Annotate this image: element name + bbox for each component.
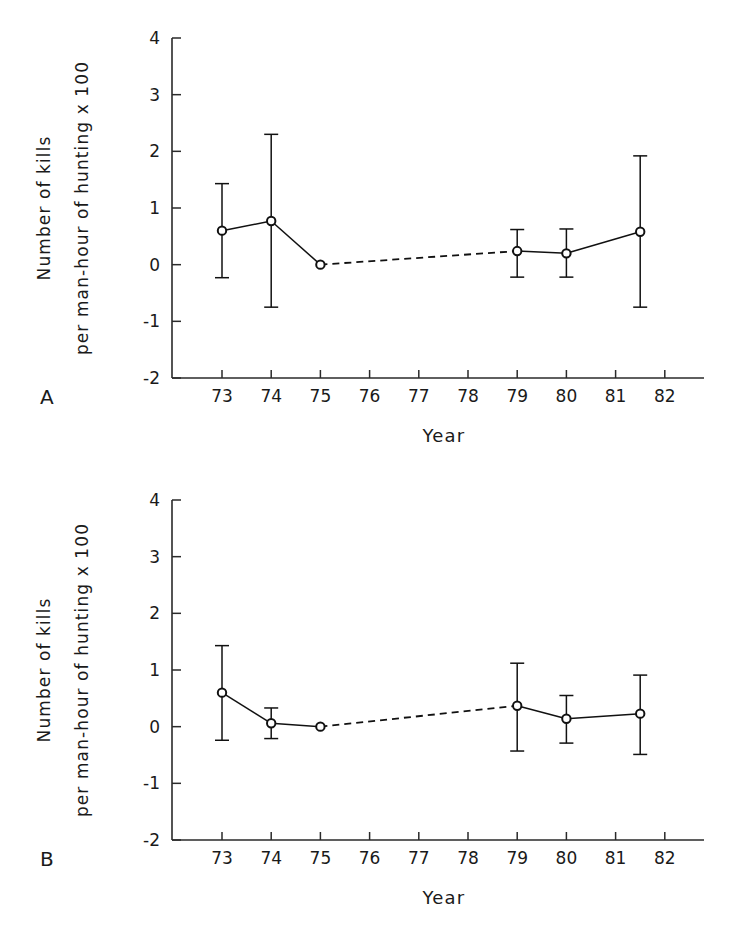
- y-axis-title-line2: per man-hour of hunting x 100: [72, 523, 92, 817]
- y-axis-title-line1: Number of kills: [34, 598, 54, 743]
- x-tick-label: 75: [310, 386, 332, 406]
- series-segment-solid: [222, 221, 271, 231]
- x-tick-label: 76: [359, 386, 381, 406]
- y-tick-label: 3: [149, 547, 160, 567]
- data-point-marker: [218, 688, 226, 696]
- figure-container: 43210-1-273747576777879808182YearNumber …: [0, 0, 745, 938]
- y-axis-title-line1: Number of kills: [34, 136, 54, 281]
- series-segment-solid: [517, 706, 566, 719]
- data-point-marker: [267, 217, 275, 225]
- y-tick-label: -2: [143, 368, 160, 388]
- x-tick-label: 73: [211, 386, 233, 406]
- x-tick-label: 79: [506, 848, 528, 868]
- y-tick-label: -1: [143, 311, 160, 331]
- x-tick-label: 82: [654, 848, 676, 868]
- series-segment-dashed: [320, 706, 517, 727]
- y-axis-title-line2: per man-hour of hunting x 100: [72, 61, 92, 355]
- x-tick-label: 81: [605, 386, 627, 406]
- x-tick-label: 78: [457, 848, 479, 868]
- y-tick-label: 1: [149, 198, 160, 218]
- x-tick-label: 74: [260, 386, 282, 406]
- y-tick-label: 0: [149, 255, 160, 275]
- data-point-marker: [513, 702, 521, 710]
- series-segment-solid: [517, 251, 566, 253]
- x-tick-label: 76: [359, 848, 381, 868]
- y-tick-label: 3: [149, 85, 160, 105]
- chart-panel-b: 43210-1-273747576777879808182YearNumber …: [0, 462, 745, 932]
- x-tick-label: 80: [556, 848, 578, 868]
- series-segment-solid: [271, 221, 320, 265]
- panel-letter: B: [40, 847, 54, 871]
- series-segment-solid: [271, 723, 320, 726]
- chart-panel-a: 43210-1-273747576777879808182YearNumber …: [0, 0, 745, 470]
- data-point-marker: [636, 709, 644, 717]
- x-tick-label: 75: [310, 848, 332, 868]
- plot-area-b: 43210-1-273747576777879808182YearNumber …: [0, 462, 745, 932]
- y-tick-label: 2: [149, 141, 160, 161]
- data-point-marker: [562, 715, 570, 723]
- x-tick-label: 78: [457, 386, 479, 406]
- x-tick-label: 74: [260, 848, 282, 868]
- series-segment-solid: [566, 232, 640, 254]
- panel-letter: A: [40, 385, 54, 409]
- data-point-marker: [513, 247, 521, 255]
- data-point-marker: [316, 722, 324, 730]
- data-point-marker: [267, 719, 275, 727]
- plot-area-a: 43210-1-273747576777879808182YearNumber …: [0, 0, 745, 470]
- y-tick-label: 0: [149, 717, 160, 737]
- series-segment-solid: [222, 693, 271, 724]
- data-point-marker: [218, 226, 226, 234]
- x-axis-title: Year: [422, 887, 466, 908]
- x-tick-label: 73: [211, 848, 233, 868]
- data-point-marker: [316, 260, 324, 268]
- x-axis-title: Year: [422, 425, 466, 446]
- y-tick-label: -1: [143, 773, 160, 793]
- x-tick-label: 82: [654, 386, 676, 406]
- x-tick-label: 80: [556, 386, 578, 406]
- series-segment-dashed: [320, 251, 517, 265]
- series-segment-solid: [566, 714, 640, 719]
- y-tick-label: 4: [149, 28, 160, 48]
- x-tick-label: 81: [605, 848, 627, 868]
- data-point-marker: [636, 228, 644, 236]
- x-tick-label: 77: [408, 848, 430, 868]
- x-tick-label: 77: [408, 386, 430, 406]
- data-point-marker: [562, 249, 570, 257]
- y-tick-label: 4: [149, 490, 160, 510]
- y-tick-label: -2: [143, 830, 160, 850]
- x-tick-label: 79: [506, 386, 528, 406]
- y-tick-label: 1: [149, 660, 160, 680]
- y-tick-label: 2: [149, 603, 160, 623]
